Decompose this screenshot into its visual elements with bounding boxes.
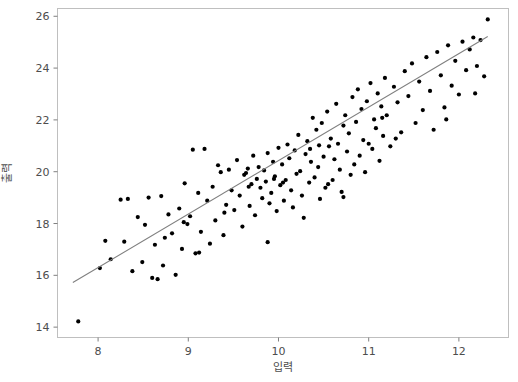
data-point (316, 165, 320, 169)
data-point (331, 178, 335, 182)
data-point (354, 120, 358, 124)
data-point (247, 185, 251, 189)
data-point (343, 113, 347, 117)
scatter-plot-svg: 14161820222426 89101112 입력 출력 (0, 0, 518, 382)
data-point (421, 108, 425, 112)
data-point (307, 180, 311, 184)
chart-figure: 14161820222426 89101112 입력 출력 (0, 0, 518, 382)
data-point (285, 142, 289, 146)
data-point (276, 146, 280, 150)
data-point (321, 155, 325, 159)
data-point (332, 157, 336, 161)
data-point (406, 94, 410, 98)
data-point (248, 204, 252, 208)
data-point (413, 121, 417, 125)
data-point (379, 104, 383, 108)
data-point (222, 211, 226, 215)
data-point (383, 76, 387, 80)
data-point (432, 128, 436, 132)
data-point (303, 152, 307, 156)
data-point (267, 201, 271, 205)
data-point (341, 123, 345, 127)
data-point (251, 154, 255, 158)
data-point (363, 170, 367, 174)
y-tick-label: 16 (36, 269, 50, 282)
data-point (199, 230, 203, 234)
data-point (253, 213, 257, 217)
data-point (130, 269, 134, 273)
data-point (358, 154, 362, 158)
data-point (473, 91, 477, 95)
y-tick-label: 26 (36, 10, 50, 23)
data-point (410, 61, 414, 65)
data-point (174, 273, 178, 277)
data-point (156, 277, 160, 281)
data-point (298, 169, 302, 173)
data-point (347, 131, 351, 135)
data-point (372, 117, 376, 121)
data-point (177, 206, 181, 210)
data-point (392, 85, 396, 89)
data-point (312, 175, 316, 179)
data-point (180, 247, 184, 251)
data-point (368, 81, 372, 85)
data-point (329, 136, 333, 140)
x-tick-label: 12 (452, 345, 466, 358)
data-point (311, 116, 315, 120)
data-point (170, 231, 174, 235)
data-point (376, 91, 380, 95)
data-point (255, 177, 259, 181)
data-point (345, 149, 349, 153)
data-point (235, 158, 239, 162)
data-point (336, 142, 340, 146)
data-point (349, 173, 353, 177)
data-point (385, 113, 389, 117)
data-point (161, 263, 165, 267)
data-point (266, 151, 270, 155)
x-axis-title: 입력 (273, 361, 293, 374)
data-point (350, 95, 354, 99)
data-point (338, 168, 342, 172)
data-point (238, 193, 242, 197)
data-point (281, 180, 285, 184)
data-point (327, 144, 331, 148)
figure-background (0, 0, 518, 382)
data-point (260, 196, 264, 200)
data-point (258, 186, 262, 190)
data-point (291, 205, 295, 209)
data-point (216, 163, 220, 167)
data-point (320, 121, 324, 125)
data-point (202, 147, 206, 151)
data-point (377, 159, 381, 163)
data-point (227, 168, 231, 172)
data-point (282, 199, 286, 203)
data-point (232, 208, 236, 212)
data-point (482, 74, 486, 78)
data-point (308, 147, 312, 151)
data-point (103, 239, 107, 243)
data-point (380, 116, 384, 120)
data-point (136, 215, 140, 219)
data-point (246, 167, 250, 171)
data-point (211, 185, 215, 189)
data-point (153, 243, 157, 247)
data-point (424, 55, 428, 59)
data-point (244, 171, 248, 175)
data-point (367, 142, 371, 146)
data-point (287, 156, 291, 160)
data-point (264, 179, 268, 183)
y-tick-label: 22 (36, 114, 50, 127)
data-point (326, 182, 330, 186)
data-point (361, 138, 365, 142)
data-point (374, 126, 378, 130)
data-point (126, 197, 130, 201)
y-tick-label: 24 (36, 62, 50, 75)
data-point (475, 64, 479, 68)
data-point (340, 190, 344, 194)
data-point (381, 134, 385, 138)
data-point (193, 251, 197, 255)
data-point (388, 144, 392, 148)
data-point (309, 160, 313, 164)
data-point (183, 181, 187, 185)
data-point (352, 162, 356, 166)
